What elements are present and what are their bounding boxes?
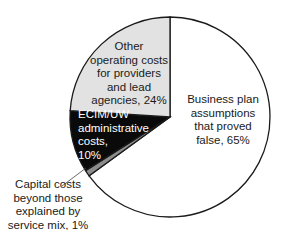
label-business: Business plan assumptions that proved fa… [178,93,268,147]
label-ecim: ECIM/UW administrative costs, 10% [78,108,158,162]
label-other: Other operating costs for providers and … [84,40,174,108]
label-capital: Capital costs beyond those explained by … [2,178,94,230]
